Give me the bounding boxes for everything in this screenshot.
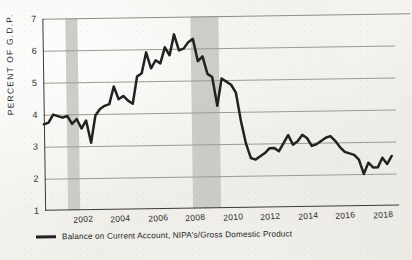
series-line-path [43,31,392,179]
legend-line-swatch [36,235,56,238]
y-tick-label-7: 7 [31,14,36,24]
x-tick-label-2018: 2018 [373,209,394,221]
x-tick-label-2016: 2016 [335,209,356,221]
chart-skew-wrapper: 7654321 20022004200620082010201220142016… [0,0,412,260]
y-tick-label-5: 5 [32,78,37,88]
y-tick-label-3: 3 [33,142,38,152]
chart-figure: 7654321 20022004200620082010201220142016… [0,0,412,260]
y-tick-label-2: 2 [33,174,38,184]
x-tick-label-2002: 2002 [72,213,93,225]
x-tick-label-2006: 2006 [147,212,168,224]
series-balance-on-current-account [42,13,397,210]
x-tick-label-2008: 2008 [185,212,206,224]
x-tick-label-2010: 2010 [223,211,244,223]
plot-area: 7654321 20022004200620082010201220142016… [42,13,397,210]
y-tick-label-1: 1 [34,206,39,216]
y-tick-label-6: 6 [32,46,37,56]
y-axis-label: PERCENT OF G.D.P. [4,13,16,115]
x-tick-label-2004: 2004 [110,213,131,225]
y-tick-label-4: 4 [32,110,37,120]
x-tick-label-2012: 2012 [260,211,281,223]
x-tick-label-2014: 2014 [298,210,319,222]
